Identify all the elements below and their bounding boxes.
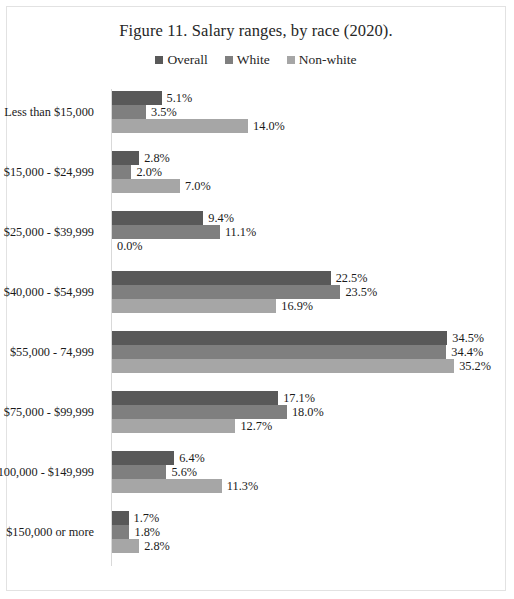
chart-legend: Overall White Non-white	[7, 52, 505, 68]
bar-overall[interactable]	[112, 451, 174, 465]
category-label: $75,000 - $99,999	[4, 405, 103, 420]
legend-label-white: White	[237, 52, 270, 68]
bar-group: $15,000 - $24,9992.8%2.0%7.0%	[7, 151, 507, 193]
legend-item-overall[interactable]: Overall	[155, 52, 207, 68]
bar-non-white[interactable]	[112, 359, 454, 373]
bar-non-white[interactable]	[112, 119, 248, 133]
bar-white[interactable]	[112, 285, 340, 299]
bar-group: $40,000 - $54,99922.5%23.5%16.9%	[7, 271, 507, 313]
bar-value-label: 0.0%	[112, 239, 143, 254]
legend-swatch-non-white	[287, 56, 295, 64]
bar-overall[interactable]	[112, 151, 139, 165]
category-label: $100,000 - $149,999	[0, 465, 103, 480]
bar-value-label: 22.5%	[331, 271, 368, 286]
bar-group: $55,000 - 74,99934.5%34.4%35.2%	[7, 331, 507, 373]
bar-value-label: 9.4%	[203, 211, 234, 226]
bar-value-label: 18.0%	[287, 405, 324, 420]
bar-group: $150,000 or more1.7%1.8%2.8%	[7, 511, 507, 553]
bar-overall[interactable]	[112, 271, 331, 285]
legend-swatch-white	[225, 56, 233, 64]
category-label: Less than $15,000	[4, 105, 103, 120]
bar-white[interactable]	[112, 165, 131, 179]
legend-swatch-overall	[155, 56, 163, 64]
bar-value-label: 1.7%	[129, 511, 160, 526]
bar-value-label: 5.6%	[166, 465, 197, 480]
bar-value-label: 11.1%	[220, 225, 256, 240]
bar-non-white[interactable]	[112, 479, 222, 493]
bar-overall[interactable]	[112, 331, 447, 345]
category-label: $55,000 - 74,999	[10, 345, 103, 360]
bar-value-label: 34.5%	[447, 331, 484, 346]
plot-area: Less than $15,0005.1%3.5%14.0%$15,000 - …	[7, 89, 507, 569]
bar-value-label: 14.0%	[248, 119, 285, 134]
bar-value-label: 34.4%	[446, 345, 483, 360]
bar-overall[interactable]	[112, 91, 162, 105]
bar-group: $100,000 - $149,9996.4%5.6%11.3%	[7, 451, 507, 493]
chart-title: Figure 11. Salary ranges, by race (2020)…	[7, 21, 505, 41]
bar-white[interactable]	[112, 225, 220, 239]
category-label: $25,000 - $39,999	[4, 225, 103, 240]
category-label: $150,000 or more	[6, 525, 103, 540]
category-label: $40,000 - $54,999	[4, 285, 103, 300]
bar-overall[interactable]	[112, 211, 203, 225]
bar-white[interactable]	[112, 345, 446, 359]
bar-value-label: 3.5%	[146, 105, 177, 120]
bar-white[interactable]	[112, 405, 287, 419]
bar-group: $25,000 - $39,9999.4%11.1%0.0%	[7, 211, 507, 253]
bar-non-white[interactable]	[112, 419, 235, 433]
bar-value-label: 17.1%	[278, 391, 315, 406]
bar-value-label: 7.0%	[180, 179, 211, 194]
bar-value-label: 23.5%	[340, 285, 377, 300]
bar-value-label: 5.1%	[162, 91, 193, 106]
bar-value-label: 2.8%	[139, 539, 170, 554]
legend-item-non-white[interactable]: Non-white	[287, 52, 357, 68]
bar-overall[interactable]	[112, 511, 129, 525]
bar-group: $75,000 - $99,99917.1%18.0%12.7%	[7, 391, 507, 433]
bar-overall[interactable]	[112, 391, 278, 405]
bar-value-label: 35.2%	[454, 359, 491, 374]
bar-value-label: 6.4%	[174, 451, 205, 466]
bar-non-white[interactable]	[112, 299, 276, 313]
bar-group: Less than $15,0005.1%3.5%14.0%	[7, 91, 507, 133]
bar-white[interactable]	[112, 465, 166, 479]
category-label: $15,000 - $24,999	[4, 165, 103, 180]
bar-value-label: 16.9%	[276, 299, 313, 314]
bar-value-label: 2.0%	[131, 165, 162, 180]
legend-label-non-white: Non-white	[299, 52, 357, 68]
chart-frame: Figure 11. Salary ranges, by race (2020)…	[6, 6, 506, 591]
bar-non-white[interactable]	[112, 179, 180, 193]
bar-non-white[interactable]	[112, 539, 139, 553]
bar-value-label: 12.7%	[235, 419, 272, 434]
legend-item-white[interactable]: White	[225, 52, 270, 68]
bar-value-label: 1.8%	[129, 525, 160, 540]
bar-value-label: 2.8%	[139, 151, 170, 166]
legend-label-overall: Overall	[167, 52, 207, 68]
bar-white[interactable]	[112, 525, 129, 539]
bar-value-label: 11.3%	[222, 479, 258, 494]
bar-white[interactable]	[112, 105, 146, 119]
